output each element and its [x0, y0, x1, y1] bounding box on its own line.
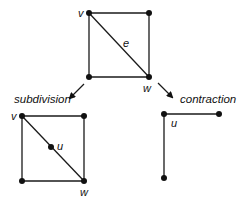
label-v: v	[11, 110, 18, 122]
label-u: u	[57, 140, 63, 152]
label-contraction: contraction	[180, 93, 236, 105]
vertex-bottom-left	[86, 74, 92, 80]
edge-e	[89, 13, 149, 77]
vertex-bottom	[161, 175, 167, 181]
label-subdivision: subdivision	[14, 93, 71, 105]
vertex-v	[19, 113, 25, 119]
label-u: u	[171, 117, 177, 129]
vertex-top-right	[146, 10, 152, 16]
subdivided-graph: v w u	[11, 110, 89, 198]
vertex-w	[81, 178, 87, 184]
vertex-top-right	[81, 113, 87, 119]
label-e: e	[123, 37, 129, 49]
original-graph: v w e	[78, 7, 152, 94]
label-v: v	[78, 7, 85, 19]
label-w: w	[143, 82, 152, 94]
arrow-contraction	[158, 83, 172, 97]
contracted-graph: u	[161, 111, 222, 181]
label-w: w	[80, 186, 89, 198]
vertex-w	[146, 74, 152, 80]
vertex-right	[216, 111, 222, 117]
graph-operations-diagram: v w e subdivision contraction v w u u	[0, 0, 239, 208]
arrow-subdivision	[70, 84, 84, 98]
vertex-bottom-left	[19, 178, 25, 184]
vertex-u	[161, 111, 167, 117]
vertex-u	[48, 144, 54, 150]
vertex-v	[86, 10, 92, 16]
